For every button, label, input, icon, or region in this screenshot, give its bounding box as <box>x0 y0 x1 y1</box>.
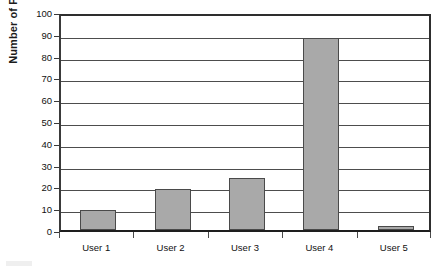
y-axis-tick-label: 100 <box>22 7 52 21</box>
y-axis-tick-label: 0 <box>22 225 52 239</box>
bar-user-5[interactable] <box>378 226 414 230</box>
x-axis-tick-label: User 3 <box>208 240 282 256</box>
x-axis-tick-marks <box>59 232 431 239</box>
x-axis-tick-label: User 5 <box>357 240 431 256</box>
x-axis-tick-label: User 2 <box>133 240 207 256</box>
y-axis-tick-label: 90 <box>22 29 52 43</box>
bar-chart-figure: Number of Posts 0102030405060708090100 U… <box>0 0 441 269</box>
y-axis-tick-label: 20 <box>22 181 52 195</box>
x-axis-tick-label: User 1 <box>59 240 133 256</box>
y-axis-tick-label: 70 <box>22 72 52 86</box>
y-axis-title: Number of Posts <box>2 0 24 84</box>
y-axis-tick-label: 80 <box>22 51 52 65</box>
bar-user-1[interactable] <box>80 210 116 230</box>
bar-user-3[interactable] <box>229 178 265 230</box>
plot-area <box>59 14 431 232</box>
x-axis-tick-mark <box>282 232 283 238</box>
x-axis-tick-mark <box>357 232 358 238</box>
y-axis-tick-label: 10 <box>22 203 52 217</box>
x-axis-tick-mark <box>430 232 431 238</box>
x-axis-tick-label: User 4 <box>282 240 356 256</box>
x-axis-tick-labels: User 1User 2User 3User 4User 5 <box>59 240 431 258</box>
y-axis-tick-label: 60 <box>22 94 52 108</box>
y-axis-tick-label: 50 <box>22 116 52 130</box>
x-axis-tick-mark <box>133 232 134 238</box>
y-axis-tick-label: 30 <box>22 160 52 174</box>
bar-user-2[interactable] <box>155 189 191 230</box>
bar-user-4[interactable] <box>303 38 339 230</box>
bar-series <box>61 16 429 230</box>
scan-artifact <box>6 261 32 266</box>
x-axis-tick-mark <box>59 232 60 238</box>
x-axis-tick-mark <box>208 232 209 238</box>
y-axis-tick-labels: 0102030405060708090100 <box>22 0 52 269</box>
y-axis-tick-label: 40 <box>22 138 52 152</box>
